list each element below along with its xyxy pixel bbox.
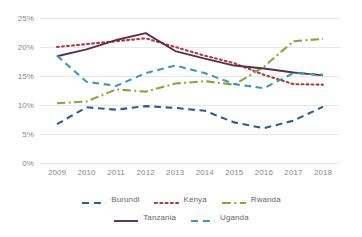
x-tick-label: 2016 [255, 168, 273, 177]
legend-row-secondary: TanzaniaUganda [0, 208, 362, 226]
legend-item-tanzania[interactable]: Tanzania [113, 212, 176, 222]
legend-swatch-icon [113, 212, 139, 222]
x-tick-label: 2017 [284, 168, 302, 177]
legend-row-primary: BurundiKenyaRwanda [0, 190, 362, 208]
legend-label: Burundi [111, 195, 139, 204]
legend-swatch-icon [154, 194, 180, 204]
gridline [40, 163, 340, 164]
legend-swatch-icon [221, 194, 247, 204]
chart-legend: BurundiKenyaRwanda TanzaniaUganda [0, 190, 362, 226]
x-tick-label: 2010 [77, 168, 95, 177]
y-tick-label: 25% [18, 14, 34, 23]
x-tick-label: 2011 [107, 168, 125, 177]
series-layer [40, 18, 340, 163]
legend-item-burundi[interactable]: Burundi [81, 194, 139, 204]
y-tick-label: 20% [18, 43, 34, 52]
legend-swatch-icon [81, 194, 107, 204]
y-tick-label: 15% [18, 72, 34, 81]
x-tick-label: 2012 [137, 168, 155, 177]
legend-label: Rwanda [251, 195, 281, 204]
x-tick-label: 2013 [166, 168, 184, 177]
series-line-burundi [57, 106, 323, 128]
legend-item-uganda[interactable]: Uganda [190, 212, 249, 222]
legend-label: Tanzania [143, 213, 176, 222]
legend-label: Uganda [220, 213, 249, 222]
legend-swatch-icon [190, 212, 216, 222]
line-chart: 0%5%10%15%20%25% 20092010201120122013201… [0, 0, 362, 237]
x-axis: 2009201020112012201320142015201620172018 [40, 168, 340, 184]
legend-label: Kenya [184, 195, 207, 204]
y-axis: 0%5%10%15%20%25% [0, 0, 40, 180]
y-tick-label: 0% [22, 159, 34, 168]
y-tick-label: 10% [18, 101, 34, 110]
x-tick-label: 2014 [196, 168, 214, 177]
plot-area [40, 18, 340, 163]
series-line-tanzania [57, 33, 323, 75]
x-tick-label: 2009 [48, 168, 66, 177]
legend-item-rwanda[interactable]: Rwanda [221, 194, 281, 204]
x-tick-label: 2015 [225, 168, 243, 177]
y-tick-label: 5% [22, 130, 34, 139]
legend-item-kenya[interactable]: Kenya [154, 194, 207, 204]
x-tick-label: 2018 [314, 168, 332, 177]
